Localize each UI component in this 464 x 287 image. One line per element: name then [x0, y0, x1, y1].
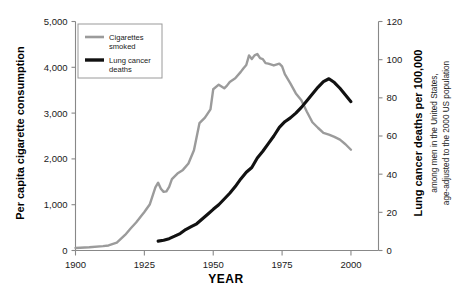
x-tick-label: 1950 [203, 259, 224, 270]
left-tick-label: 3,000 [44, 108, 68, 119]
x-tick-label: 1975 [272, 259, 293, 270]
x-axis-title: YEAR [208, 272, 243, 286]
right-tick-label: 40 [387, 169, 398, 180]
right-y-axis-title: Lung cancer deaths per 100,000 [412, 50, 424, 217]
x-tick-label: 1900 [65, 259, 86, 270]
right-tick-label: 80 [387, 92, 398, 103]
x-tick-label: 2000 [340, 259, 361, 270]
left-y-axis-title: Per capita cigarette consumption [14, 46, 26, 220]
left-tick-label: 5,000 [44, 16, 68, 27]
left-tick-label: 4,000 [44, 62, 68, 73]
right-y-axis-subtitle-line2: age-adjusted to the 2000 US population [442, 60, 451, 205]
right-y-axis-subtitle-line1: among men in the United States, [430, 73, 439, 192]
dual-axis-line-chart: 01,0002,0003,0004,0005,000 0204060801001… [0, 0, 464, 287]
left-tick-label: 2,000 [44, 153, 68, 164]
chart-background [0, 0, 464, 287]
left-tick-label: 1,000 [44, 199, 68, 210]
right-tick-label: 120 [387, 16, 403, 27]
right-tick-label: 100 [387, 54, 403, 65]
left-tick-label: 0 [62, 245, 67, 256]
x-tick-label: 1925 [134, 259, 155, 270]
chart-container: 01,0002,0003,0004,0005,000 0204060801001… [0, 0, 464, 287]
right-tick-label: 0 [387, 245, 392, 256]
chart-legend: CigarettessmokedLung cancerdeaths [78, 24, 162, 78]
right-tick-label: 20 [387, 207, 398, 218]
legend-label-line2: deaths [109, 65, 132, 74]
right-tick-label: 60 [387, 130, 398, 141]
legend-label-line2: smoked [109, 42, 136, 51]
